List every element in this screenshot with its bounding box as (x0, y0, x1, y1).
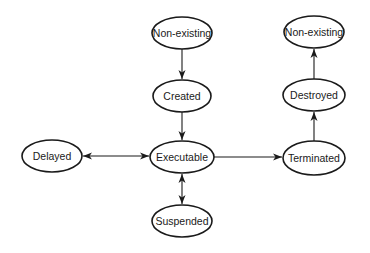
node-nonexisting-start: Non-existing (152, 17, 212, 49)
state-diagram: Non-existing Created Executable Delayed … (0, 0, 370, 253)
state-label: Delayed (33, 150, 72, 162)
state-label: Non-existing (285, 26, 344, 38)
state-label: Terminated (288, 152, 340, 164)
state-label: Created (163, 90, 201, 102)
state-label: Destroyed (290, 89, 338, 101)
state-label: Executable (156, 151, 208, 163)
node-delayed: Delayed (22, 140, 82, 172)
node-suspended: Suspended (152, 205, 212, 237)
state-label: Non-existing (153, 27, 212, 39)
edges (83, 49, 314, 204)
node-terminated: Terminated (283, 141, 345, 175)
node-nonexisting-end: Non-existing (284, 16, 344, 48)
node-created: Created (153, 80, 211, 112)
node-executable: Executable (150, 141, 214, 173)
node-destroyed: Destroyed (283, 79, 345, 111)
state-label: Suspended (155, 215, 208, 227)
